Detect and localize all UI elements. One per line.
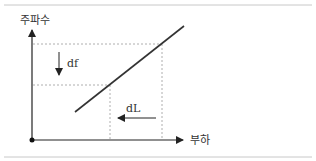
y-axis-label: 주파수 xyxy=(20,14,50,27)
origin-dot xyxy=(30,138,35,143)
delta-l-label: dL xyxy=(126,102,141,115)
delta-f-label: df xyxy=(67,57,79,70)
droop-characteristic-line xyxy=(75,26,184,112)
x-axis-label: 부하 xyxy=(190,133,210,147)
frequency-load-diagram: df dL 주파수 부하 xyxy=(0,0,316,161)
